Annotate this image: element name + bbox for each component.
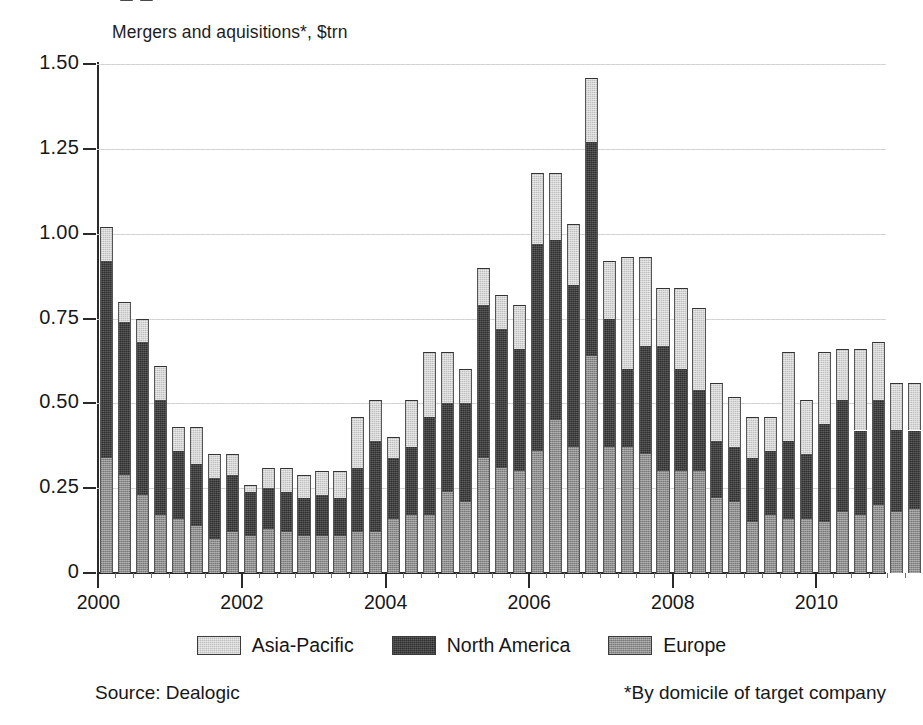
legend-swatch bbox=[608, 636, 652, 655]
x-minor-tick bbox=[600, 573, 601, 578]
x-minor-tick bbox=[905, 573, 906, 578]
x-minor-tick bbox=[726, 573, 727, 578]
bar-segment bbox=[459, 403, 472, 501]
y-tick-mark bbox=[83, 402, 96, 404]
bar-segment bbox=[405, 447, 418, 515]
bar-segment bbox=[603, 261, 616, 319]
bar-segment bbox=[351, 468, 364, 532]
bar bbox=[728, 397, 741, 573]
x-minor-tick bbox=[797, 573, 798, 578]
bar-segment bbox=[226, 532, 239, 573]
x-tick-label: 2004 bbox=[364, 591, 407, 614]
bar-segment bbox=[190, 526, 203, 574]
bar-segment bbox=[190, 427, 203, 464]
bar bbox=[854, 349, 867, 573]
bar-segment bbox=[764, 417, 777, 451]
bar-segment bbox=[836, 400, 849, 512]
bar-segment bbox=[764, 451, 777, 515]
x-tick-mark bbox=[672, 573, 674, 588]
bar-segment bbox=[495, 468, 508, 573]
gridline bbox=[97, 403, 886, 404]
y-tick-label: 0.25 bbox=[17, 475, 79, 498]
bar bbox=[244, 485, 257, 573]
bar-segment bbox=[567, 224, 580, 285]
bar bbox=[567, 224, 580, 574]
bar-segment bbox=[621, 369, 634, 447]
bar-segment bbox=[136, 319, 149, 343]
y-tick-mark bbox=[83, 63, 96, 65]
bar-segment bbox=[405, 400, 418, 448]
bar-segment bbox=[495, 329, 508, 468]
bar-segment bbox=[154, 366, 167, 400]
bar-segment bbox=[423, 417, 436, 515]
bar bbox=[656, 288, 669, 573]
legend-item[interactable]: Europe bbox=[608, 634, 726, 657]
bar bbox=[836, 349, 849, 573]
chart-container: Mergers and aquisitions*, $trn 00.250.50… bbox=[0, 0, 923, 725]
x-tick-label: 2006 bbox=[507, 591, 550, 614]
bar bbox=[818, 352, 831, 573]
x-minor-tick bbox=[564, 573, 565, 578]
bar-segment bbox=[100, 458, 113, 573]
bar-segment bbox=[226, 454, 239, 474]
bar-segment bbox=[710, 498, 723, 573]
bar-segment bbox=[818, 522, 831, 573]
x-tick-mark bbox=[241, 573, 243, 588]
bar-segment bbox=[333, 498, 346, 535]
bar-segment bbox=[585, 78, 598, 142]
bar-segment bbox=[854, 515, 867, 573]
gridline bbox=[97, 149, 886, 150]
bar-segment bbox=[639, 454, 652, 573]
x-minor-tick bbox=[421, 573, 422, 578]
bar-segment bbox=[656, 471, 669, 573]
x-minor-tick bbox=[187, 573, 188, 578]
bar-segment bbox=[746, 417, 759, 458]
bar-segment bbox=[567, 447, 580, 573]
bar-segment bbox=[262, 529, 275, 573]
bar bbox=[746, 417, 759, 573]
bar bbox=[172, 427, 185, 573]
bar-segment bbox=[351, 532, 364, 573]
source-note: Source: Dealogic bbox=[95, 682, 240, 704]
bar bbox=[549, 173, 562, 573]
legend-item[interactable]: Asia-Pacific bbox=[197, 634, 354, 657]
bar-segment bbox=[782, 352, 795, 440]
bar bbox=[297, 475, 310, 573]
bar bbox=[226, 454, 239, 573]
x-minor-tick bbox=[438, 573, 439, 578]
x-minor-tick bbox=[636, 573, 637, 578]
x-minor-tick bbox=[851, 573, 852, 578]
bar-segment bbox=[297, 475, 310, 499]
bar-segment bbox=[226, 475, 239, 533]
x-minor-tick bbox=[115, 573, 116, 578]
x-minor-tick bbox=[492, 573, 493, 578]
bar-segment bbox=[746, 522, 759, 573]
bar-segment bbox=[728, 397, 741, 448]
bar bbox=[531, 173, 544, 573]
x-minor-tick bbox=[313, 573, 314, 578]
bar bbox=[513, 305, 526, 573]
bar-segment bbox=[656, 288, 669, 346]
bar-segment bbox=[549, 420, 562, 573]
bar bbox=[190, 427, 203, 573]
bar-segment bbox=[118, 322, 131, 475]
legend-item[interactable]: North America bbox=[392, 634, 571, 657]
bar-segment bbox=[800, 454, 813, 518]
bar bbox=[585, 78, 598, 573]
bar-segment bbox=[136, 495, 149, 573]
bar-segment bbox=[872, 342, 885, 400]
bar-segment bbox=[764, 515, 777, 573]
x-minor-tick bbox=[869, 573, 870, 578]
bar-segment bbox=[315, 471, 328, 495]
bar bbox=[208, 454, 221, 573]
chart-title: Mergers and aquisitions*, $trn bbox=[112, 22, 347, 43]
x-tick-mark bbox=[528, 573, 530, 588]
footnote-text: *By domicile of target company bbox=[624, 682, 886, 704]
bar-segment bbox=[100, 227, 113, 261]
bar bbox=[423, 352, 436, 573]
y-tick-mark bbox=[83, 318, 96, 320]
bar bbox=[136, 319, 149, 574]
y-tick-label: 0.50 bbox=[17, 390, 79, 413]
bar-segment bbox=[369, 441, 382, 533]
bar-segment bbox=[908, 431, 921, 509]
